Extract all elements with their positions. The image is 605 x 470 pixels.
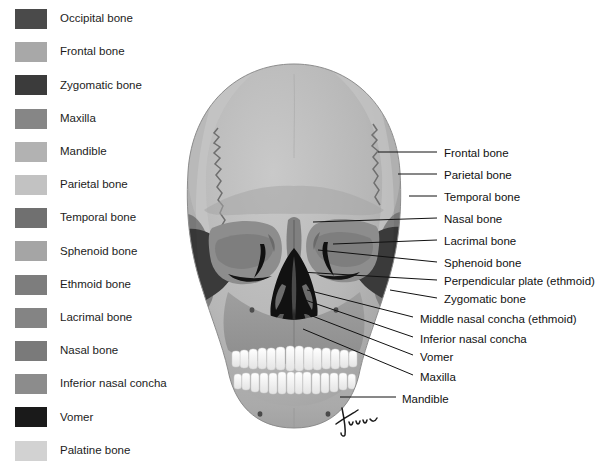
legend-color-swatch bbox=[15, 241, 47, 261]
infraorbital-foramen-right bbox=[334, 307, 339, 313]
infraorbital-foramen-left bbox=[250, 307, 255, 313]
callout-label[interactable]: Parietal bone bbox=[444, 170, 512, 182]
legend-color-swatch bbox=[15, 9, 47, 29]
legend-item[interactable]: Maxilla bbox=[0, 106, 96, 132]
callout-label[interactable]: Lacrimal bone bbox=[444, 236, 516, 248]
callout-label[interactable]: Inferior nasal concha bbox=[420, 334, 527, 346]
legend-item[interactable]: Parietal bone bbox=[0, 172, 128, 198]
legend-color-swatch bbox=[15, 109, 47, 129]
legend-color-swatch bbox=[15, 142, 47, 162]
legend-item-label: Sphenoid bone bbox=[60, 246, 137, 258]
callout-label[interactable]: Frontal bone bbox=[444, 148, 509, 160]
orbit-left bbox=[209, 221, 282, 284]
legend-item[interactable]: Inferior nasal concha bbox=[0, 371, 167, 397]
legend-color-swatch bbox=[15, 407, 47, 427]
legend-item-label: Temporal bone bbox=[60, 212, 136, 224]
skull-body bbox=[168, 62, 420, 454]
legend-color-swatch bbox=[15, 341, 47, 361]
legend-item-label: Maxilla bbox=[60, 113, 96, 125]
callout-label[interactable]: Sphenoid bone bbox=[444, 258, 521, 270]
legend-item[interactable]: Frontal bone bbox=[0, 39, 125, 65]
legend-color-swatch bbox=[15, 75, 47, 95]
legend-item[interactable]: Lacrimal bone bbox=[0, 305, 132, 331]
skull-anterior-view-graphic bbox=[168, 62, 420, 454]
artist-signature bbox=[332, 404, 380, 438]
skull-diagram-figure: Occipital boneFrontal boneZygomatic bone… bbox=[0, 0, 605, 470]
mental-foramen-left bbox=[258, 411, 263, 417]
callout-label[interactable]: Zygomatic bone bbox=[444, 294, 526, 306]
orbit-right bbox=[306, 219, 379, 282]
legend-item[interactable]: Sphenoid bone bbox=[0, 238, 137, 264]
legend-color-swatch bbox=[15, 42, 47, 62]
legend-color-swatch bbox=[15, 175, 47, 195]
legend-item[interactable]: Nasal bone bbox=[0, 338, 118, 364]
mental-foramen-right bbox=[326, 411, 331, 417]
legend-item-label: Occipital bone bbox=[60, 13, 133, 25]
legend-item-label: Inferior nasal concha bbox=[60, 378, 167, 390]
callout-label[interactable]: Maxilla bbox=[420, 372, 456, 384]
legend-item-label: Palatine bone bbox=[60, 445, 130, 457]
legend-item-label: Zygomatic bone bbox=[60, 80, 142, 92]
callout-label[interactable]: Vomer bbox=[420, 352, 453, 364]
legend-item[interactable]: Zygomatic bone bbox=[0, 72, 142, 98]
lower-teeth-row bbox=[234, 372, 356, 394]
legend-color-swatch bbox=[15, 275, 47, 295]
callout-label[interactable]: Middle nasal concha (ethmoid) bbox=[420, 314, 577, 326]
upper-teeth-row bbox=[232, 346, 357, 371]
callout-label[interactable]: Mandible bbox=[402, 394, 449, 406]
legend-item[interactable]: Vomer bbox=[0, 404, 93, 430]
legend-color-swatch bbox=[15, 308, 47, 328]
legend-color-swatch bbox=[15, 208, 47, 228]
legend-item[interactable]: Ethmoid bone bbox=[0, 272, 131, 298]
legend-item-label: Lacrimal bone bbox=[60, 312, 132, 324]
callout-label[interactable]: Perpendicular plate (ethmoid) bbox=[444, 276, 595, 288]
callout-label[interactable]: Nasal bone bbox=[444, 214, 502, 226]
legend-item-label: Vomer bbox=[60, 412, 93, 424]
legend-item-label: Frontal bone bbox=[60, 46, 125, 58]
legend-color-swatch bbox=[15, 441, 47, 461]
skull-illustration bbox=[168, 62, 420, 454]
callout-label[interactable]: Temporal bone bbox=[444, 192, 520, 204]
legend-item-label: Ethmoid bone bbox=[60, 279, 131, 291]
legend-item-label: Mandible bbox=[60, 146, 107, 158]
legend-item[interactable]: Temporal bone bbox=[0, 205, 136, 231]
legend-color-swatch bbox=[15, 374, 47, 394]
legend-item-label: Nasal bone bbox=[60, 345, 118, 357]
legend-item[interactable]: Palatine bone bbox=[0, 438, 130, 464]
legend-item[interactable]: Mandible bbox=[0, 139, 107, 165]
legend-item[interactable]: Occipital bone bbox=[0, 6, 133, 32]
legend-item-label: Parietal bone bbox=[60, 179, 128, 191]
